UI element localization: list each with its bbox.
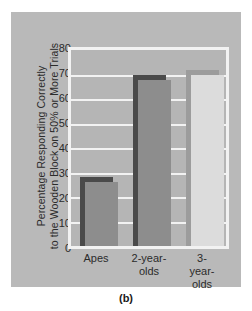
chart-panel: Percentage Responding Correctly to the W…: [11, 12, 241, 287]
bar-3-year-olds-front-face: [191, 75, 224, 246]
x-tick-label-3-year-olds: 3-year- olds: [189, 252, 216, 291]
bar-2-year-olds-front-face: [138, 80, 171, 247]
x-tick-label-2-year-olds: 2-year- olds: [132, 252, 167, 278]
x-axis-tick-labels: Apes 2-year- olds 3-year- olds: [68, 252, 229, 286]
bar-apes-front-face: [85, 182, 118, 246]
x-tick-label-apes: Apes: [83, 252, 108, 265]
bar-3-year-olds: [186, 70, 224, 246]
bar-apes: [80, 177, 118, 246]
figure-caption: (b): [0, 292, 252, 304]
bar-2-year-olds: [133, 75, 171, 247]
figure-panel-b: Percentage Responding Correctly to the W…: [0, 0, 252, 311]
plot-area: [68, 47, 229, 249]
plot-inner: [71, 50, 226, 246]
